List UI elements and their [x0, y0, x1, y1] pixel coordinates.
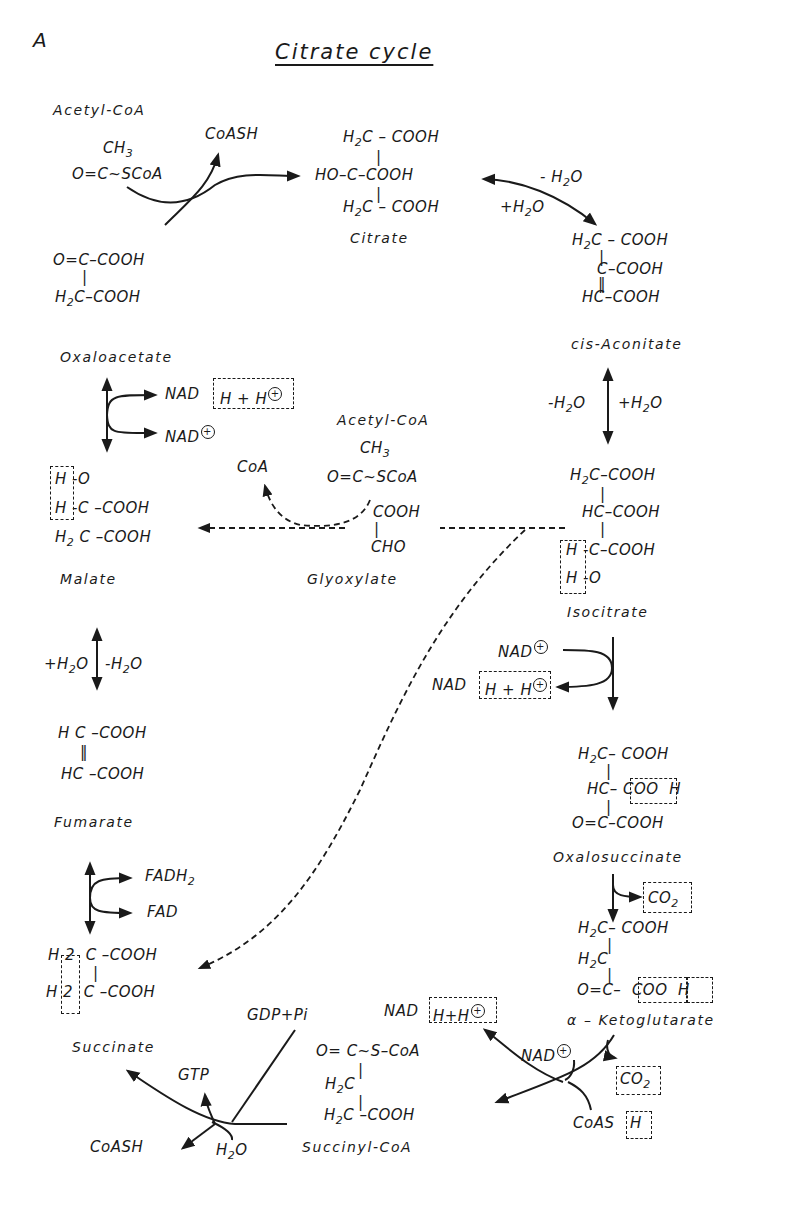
akg-formula-1: H2C– COOH: [578, 921, 669, 939]
acetyl-coa-label: Acetyl-CoA: [53, 103, 146, 117]
cis-aconitate-label: cis-Aconitate: [571, 337, 683, 351]
citrate-plus-h2o: +H2O: [500, 200, 545, 218]
fumarate-formula-1: H C –COOH: [58, 726, 147, 741]
acetyl-coa-glyox-formula: O=C~SCoA: [327, 470, 418, 485]
citrate-label: Citrate: [350, 231, 409, 245]
iso-nadh-box: [479, 671, 551, 699]
acetyl-coa-glyox-label: Acetyl-CoA: [337, 413, 430, 427]
fumarate-formula-2: HC –COOH: [61, 767, 144, 782]
bond: |: [93, 966, 99, 981]
iso-nad-label: NAD: [432, 678, 467, 693]
kg-nadh-box: [429, 997, 497, 1023]
fadh2-label: FADH2: [145, 869, 195, 887]
co2-box-2: [616, 1066, 661, 1095]
succinyl-coa-formula-3: H2C –COOH: [324, 1108, 415, 1126]
succinyl-coa-label: Succinyl-CoA: [302, 1140, 412, 1154]
kg-nad-label: NAD: [384, 1004, 419, 1019]
isocitrate-formula-2: HC–COOH: [582, 505, 660, 520]
oxaloacetate-label: Oxaloacetate: [60, 350, 173, 364]
figure-title: Citrate cycle: [275, 42, 433, 63]
akg-formula-2: H2C: [578, 952, 608, 970]
malate-formula-3: H2 C –COOH: [55, 530, 151, 548]
fad-label: FAD: [147, 905, 178, 920]
oxaloacetate-formula-1: O=C–COOH: [53, 253, 145, 268]
alpha-ketoglutarate-label: α – Ketoglutarate: [567, 1013, 715, 1027]
glyoxylate-formula-2: CHO: [371, 540, 406, 555]
citrate-formula-3: H2C – COOH: [343, 200, 439, 218]
citrate-minus-h2o: - H2O: [540, 170, 583, 188]
kg-coas-label: CoAS: [573, 1116, 614, 1131]
glyox-coa-label: CoA: [237, 460, 268, 475]
fumarate-label: Fumarate: [54, 815, 134, 829]
aconitate-formula-3: HC–COOH: [582, 290, 660, 305]
malate-nad-plus: NAD+: [165, 425, 215, 445]
gdp-pi-label: GDP+Pi: [247, 1008, 308, 1023]
h2o-label: H2O: [216, 1143, 248, 1161]
citrate-formula-1: H2C – COOH: [343, 130, 439, 148]
succinate-h-box: [61, 955, 80, 1014]
kg-nad-plus: NAD+: [521, 1044, 571, 1064]
coash-label: CoASH: [205, 127, 258, 142]
oxalosuccinate-coo-box: [630, 778, 677, 804]
malate-h-box: [50, 466, 74, 520]
co2-box-1: [643, 882, 692, 913]
succinyl-coa-formula-2: H2C: [325, 1077, 355, 1095]
oxalosuccinate-label: Oxalosuccinate: [553, 850, 683, 864]
acetyl-coa-glyox-ch3: CH3: [360, 441, 390, 459]
succ-coash-label: CoASH: [90, 1140, 143, 1155]
citrate-cycle-diagram: A Citrate cycle Acetyl-CoA CH3 O=C~SCoA …: [0, 0, 788, 1205]
fumarate-plus-h2o: +H2O: [44, 657, 89, 675]
bond: |: [606, 764, 612, 779]
isocitrate-h-box: [560, 540, 586, 594]
kg-coas-h-box: [626, 1111, 652, 1139]
oxaloacetate-formula-2: H2C–COOH: [55, 290, 141, 308]
aconitate-minus-h2o: -H2O: [548, 396, 586, 414]
aconitate-formula-2: C–COOH: [597, 262, 663, 277]
gtp-label: GTP: [178, 1068, 209, 1083]
bond: |: [376, 150, 382, 165]
glyoxylate-label: Glyoxylate: [307, 572, 398, 586]
aconitate-formula-1: H2C – COOH: [572, 233, 668, 251]
acetyl-coa-formula: O=C~SCoA: [72, 167, 163, 182]
citrate-formula-2: HO–C–COOH: [315, 168, 413, 183]
malate-label: Malate: [60, 572, 117, 586]
panel-label: A: [33, 30, 47, 50]
fumarate-minus-h2o: -H2O: [105, 657, 143, 675]
isocitrate-formula-1: H2C–COOH: [570, 468, 656, 486]
bond: |: [82, 270, 88, 285]
malate-nad-label: NAD: [165, 387, 200, 402]
iso-nad-plus: NAD+: [498, 640, 548, 660]
succinyl-coa-formula-1: O= C~S–CoA: [316, 1044, 420, 1059]
double-bond: ‖: [80, 745, 88, 760]
bond: |: [600, 487, 606, 502]
isocitrate-label: Isocitrate: [567, 605, 649, 619]
succinate-label: Succinate: [72, 1040, 155, 1054]
glyoxylate-formula-1: COOH: [373, 505, 420, 520]
akg-coo-box: [638, 977, 687, 1003]
aconitate-plus-h2o: +H2O: [618, 396, 663, 414]
bond: |: [374, 522, 380, 537]
akg-h-box: [687, 977, 713, 1003]
malate-nadh-box: [213, 378, 294, 409]
acetyl-coa-ch3: CH3: [103, 141, 133, 159]
bond: |: [358, 1063, 364, 1078]
oxalosuccinate-formula-1: H2C– COOH: [578, 747, 669, 765]
oxalosuccinate-formula-3: O=C–COOH: [572, 816, 664, 831]
bond: |: [600, 522, 606, 537]
bond: |: [606, 800, 612, 815]
